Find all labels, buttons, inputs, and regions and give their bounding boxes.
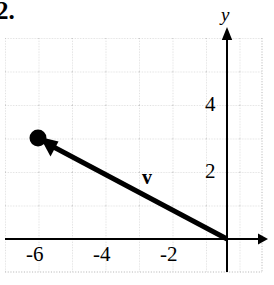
y-tick-label-4: 4: [205, 94, 216, 115]
x-tick-label-minus6: -6: [26, 244, 44, 265]
vector-graph-figure: 2.: [0, 0, 274, 285]
vector-endpoint-dot: [30, 130, 47, 147]
y-axis-label: y: [221, 5, 229, 24]
x-tick-label-minus2: -2: [160, 244, 178, 265]
y-tick-label-2: 2: [205, 161, 216, 182]
vector-label-v: v: [142, 167, 152, 187]
x-tick-label-minus4: -4: [93, 244, 111, 265]
